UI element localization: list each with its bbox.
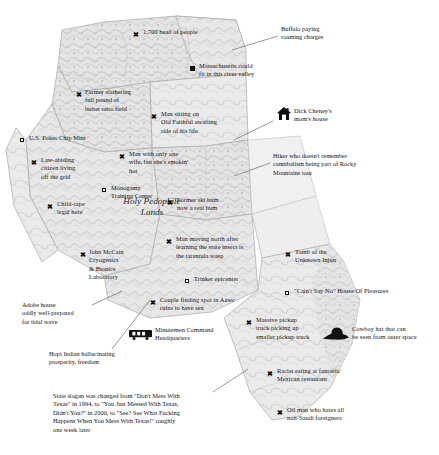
label-couple-aztec-ruins: Couple finding spot in Aztec ruins to ha… [160, 296, 282, 313]
label-head-of-people: 1,700 head of people [143, 28, 263, 36]
marker-john-mccain-cryogenics: ✖ [80, 252, 86, 259]
marker-poker-chip-mint [20, 138, 24, 142]
label-caint-say-no: "Cain't Say No" House Of Pleasures [294, 287, 439, 295]
callout-adobe-house-tidal-wave: Adobe house oddly well-prepared for tida… [22, 301, 114, 326]
callout-buffalo-roaming-charges: Buffalo paying roaming charges [281, 25, 401, 42]
house-icon [276, 106, 292, 125]
missile-launcher-icon [129, 326, 153, 344]
marker-former-ski-bum: ✖ [167, 200, 173, 207]
label-poker-chip-mint: U.S. Poker Chip Mint [29, 134, 149, 142]
marker-tomb-unknown-injun: ✖ [285, 252, 291, 259]
label-oil-man-non-saudi: Oil man who hates all non-Saudi foreigne… [287, 406, 391, 423]
label-man-only-one-wife: Man with only one wife, but she's smokin… [129, 150, 237, 175]
marker-massachusetts-river-valley [190, 66, 195, 71]
marker-child-rape-legal: ✖ [47, 204, 53, 211]
marker-man-old-faithful: ✖ [151, 114, 157, 121]
marker-trinket-epicenter [185, 279, 189, 283]
marker-head-of-people: ✖ [133, 32, 139, 39]
label-racist-mexican-restaurant: Racist eating at fantastic Mexican resta… [277, 367, 389, 384]
label-dick-cheney-house: Dick Cheney's mom's house [294, 107, 386, 124]
cowboy-hat-icon [322, 326, 350, 344]
marker-racist-mexican-restaurant: ✖ [267, 371, 273, 378]
label-man-moving-north: Man moving north after learning the stat… [176, 235, 294, 260]
marker-oil-man-non-saudi: ✖ [277, 410, 283, 417]
label-man-old-faithful: Man sitting on Old Faithful awaiting rid… [161, 110, 261, 135]
marker-man-only-one-wife: ✖ [119, 154, 125, 161]
marker-man-moving-north: ✖ [166, 239, 172, 246]
label-tomb-unknown-injun: Tomb of the Unknown Injun [295, 248, 385, 265]
label-cowboy-hat: Cowboy hat that can be seen from outer s… [352, 325, 439, 342]
callout-texas-state-slogan: State slogan was changed from "Don't Mes… [53, 392, 253, 434]
label-massachusetts-river-valley: Massachusetts could fit in this river va… [199, 62, 309, 79]
label-trinket-epicenter: Trinket epicenter [194, 275, 290, 283]
marker-monogamy-training-center [102, 188, 106, 192]
label-law-abiding-citizen: Law-abiding citizen living off the grid [41, 156, 117, 181]
callout-hiker-cannibalism: Hiker who doesn't remember cannibalism b… [273, 152, 421, 177]
label-john-mccain-cryogenics: John McCain Cryogenics & Bionics Laborat… [89, 248, 151, 281]
label-former-ski-bum: Former ski bum now a real bum [177, 196, 269, 213]
label-child-rape-legal: Child-rape legal here [57, 200, 127, 217]
marker-farmer-slathering-butter: ✖ [76, 92, 82, 99]
marker-couple-aztec-ruins: ✖ [150, 300, 156, 307]
marker-caint-say-no [285, 291, 289, 295]
label-minutemen-hq: Minutemen Command Headquarters [155, 326, 259, 343]
map-canvas: Holy Pedophile Lands ✖ 1,700 head of peo… [0, 0, 439, 455]
marker-law-abiding-citizen: ✖ [31, 160, 37, 167]
callout-hopi-indian-hallucinating: Hopi Indian hallucinating prosperity, fr… [49, 350, 183, 367]
